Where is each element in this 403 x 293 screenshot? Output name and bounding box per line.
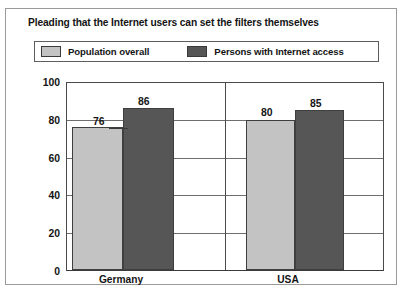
y-tick-label-40: 40 bbox=[14, 190, 60, 201]
plot-area: 76 86 80 85 bbox=[66, 82, 384, 271]
legend-swatch-persons-with-internet-access bbox=[187, 46, 207, 57]
legend-entry-population-overall: Population overall bbox=[41, 42, 149, 61]
bar-value-usa-population-overall: 80 bbox=[261, 107, 273, 118]
legend-swatch-population-overall bbox=[41, 46, 61, 57]
legend-label-persons-with-internet-access: Persons with Internet access bbox=[214, 46, 343, 57]
chart-figure-frame: Pleading that the Internet users can set… bbox=[5, 8, 397, 285]
y-axis: 100 80 60 40 20 0 bbox=[6, 82, 60, 271]
chart-title: Pleading that the Internet users can set… bbox=[28, 17, 388, 28]
y-tick-label-100: 100 bbox=[14, 77, 60, 88]
category-label-usa: USA bbox=[238, 274, 338, 285]
y-tick-label-60: 60 bbox=[14, 152, 60, 163]
leader-line-germany-population-overall bbox=[109, 128, 128, 129]
bar-germany-persons-with-internet-access[interactable] bbox=[123, 108, 174, 270]
legend-entry-persons-with-internet-access: Persons with Internet access bbox=[187, 42, 343, 61]
bar-germany-population-overall[interactable] bbox=[72, 127, 123, 270]
bar-value-germany-persons-with-internet-access: 86 bbox=[138, 96, 150, 107]
chart-legend: Population overall Persons with Internet… bbox=[34, 41, 379, 62]
y-tick-label-0: 0 bbox=[14, 266, 60, 277]
y-tick-label-80: 80 bbox=[14, 114, 60, 125]
category-group-divider bbox=[225, 83, 226, 270]
bar-value-usa-persons-with-internet-access: 85 bbox=[310, 98, 322, 109]
bar-usa-population-overall[interactable] bbox=[246, 120, 295, 270]
bar-usa-persons-with-internet-access[interactable] bbox=[295, 110, 344, 270]
legend-label-population-overall: Population overall bbox=[68, 46, 149, 57]
bar-value-germany-population-overall: 76 bbox=[93, 116, 105, 127]
category-label-germany: Germany bbox=[66, 274, 176, 285]
y-tick-label-20: 20 bbox=[14, 228, 60, 239]
